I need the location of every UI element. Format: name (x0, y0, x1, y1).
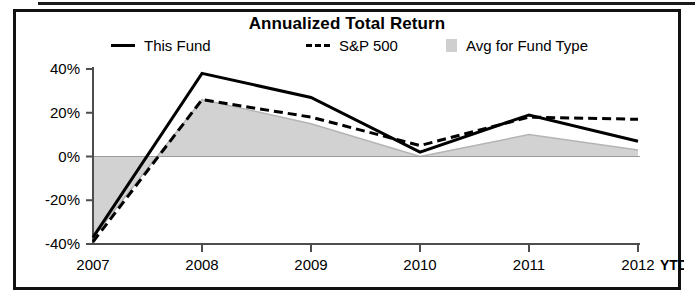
x-tick-label: 2007 (76, 256, 109, 273)
y-tick-label: 40% (50, 60, 80, 77)
x-tick-label: 2010 (403, 256, 436, 273)
y-tick-label: -40% (45, 235, 80, 252)
y-axis-tick-labels: 40%20%0%-20%-40% (45, 60, 80, 252)
x-axis-ytd-label: YTD (660, 257, 684, 273)
x-tick-label: 2012 (621, 256, 654, 273)
y-tick-label: -20% (45, 191, 80, 208)
x-tick-label: 2009 (294, 256, 327, 273)
y-tick-label: 0% (58, 148, 80, 165)
y-axis (86, 67, 93, 244)
chart-svg: 40%20%0%-20%-40% 20072008200920102011201… (16, 12, 684, 293)
x-axis-tick-labels: 200720082009201020112012YTD (76, 256, 684, 273)
top-divider-rule (38, 2, 695, 5)
x-tick-label: 2008 (185, 256, 218, 273)
chart-plot-area: 40%20%0%-20%-40% 20072008200920102011201… (16, 12, 684, 293)
y-tick-label: 20% (50, 104, 80, 121)
x-tick-label: 2011 (513, 256, 545, 273)
annualized-total-return-chart-panel: Annualized Total Return This Fund S&P 50… (13, 9, 681, 290)
x-axis (93, 244, 640, 252)
